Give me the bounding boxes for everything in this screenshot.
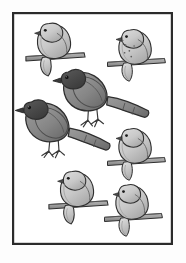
illustration-canvas: Flock of perched birds ink and grey wash…: [0, 0, 186, 263]
bird-flock-illustration: [0, 0, 186, 263]
